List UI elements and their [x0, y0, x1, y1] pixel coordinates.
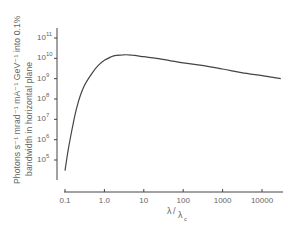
y-tick-label: 106: [37, 133, 50, 144]
x-tick-label: 0.1: [59, 196, 71, 205]
x-tick-label: 1.0: [99, 196, 111, 205]
x-axis-ticks: 0.11.010100100010000: [59, 189, 273, 205]
y-tick-label: 105: [37, 153, 50, 164]
y-tick-label: 108: [37, 92, 50, 103]
x-tick-label: 10000: [251, 196, 274, 205]
svg-text:λ: λ: [178, 210, 183, 220]
svg-text:λ: λ: [167, 206, 172, 216]
y-tick-label: 1011: [37, 31, 53, 42]
svg-text:c: c: [184, 216, 187, 222]
x-tick-label: 100: [177, 196, 191, 205]
x-tick-label: 1000: [214, 196, 232, 205]
y-axis-ticks: 10510610710810910101011: [37, 31, 57, 164]
chart-plot: 10510610710810910101011 0.11.01010010001…: [0, 0, 292, 232]
x-axis-title: λ / λ c: [167, 206, 187, 222]
x-tick-label: 10: [139, 196, 148, 205]
spectrum-curve: [65, 55, 281, 171]
y-tick-label: 1010: [37, 51, 53, 62]
svg-text:/: /: [173, 206, 176, 216]
y-tick-label: 107: [37, 112, 50, 123]
y-tick-label: 109: [37, 72, 50, 83]
